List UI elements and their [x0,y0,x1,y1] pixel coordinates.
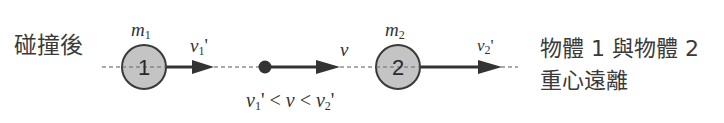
velocity-v1-prime-label: v1' [190,36,208,61]
velocity-relation: v1' < v < v2' [246,90,334,116]
velocity-arrow-v2-prime [420,60,502,74]
ball-2-label: 2 [378,56,418,80]
center-of-mass-arrow-v [265,60,340,74]
caption-line-1: 物體 1 與物體 2 [540,36,699,62]
center-of-mass-dot-icon [259,61,272,74]
velocity-v-label: v [340,40,348,60]
mass-1-label: m1 [131,20,151,45]
velocity-arrow-v1-prime [166,60,214,74]
collision-diagram: 碰撞後 1 2 m1 m2 v1' v v2' v1' < v < v2' 物體… [0,0,724,123]
velocity-v2-prime-label: v2' [477,36,494,60]
after-collision-title: 碰撞後 [14,32,83,58]
mass-2-label: m2 [385,20,405,45]
caption-line-2: 重心遠離 [540,68,628,94]
ball-1-label: 1 [124,56,164,80]
